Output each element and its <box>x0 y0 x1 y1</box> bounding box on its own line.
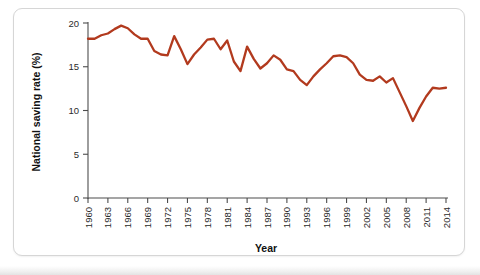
x-axis-group: 1960196319661969197219751978198119841987… <box>83 198 452 228</box>
data-line-national-saving-rate <box>88 26 446 121</box>
y-tick-label: 20 <box>68 18 79 29</box>
x-tick-label: 2011 <box>421 207 432 227</box>
page-edge-shadow <box>0 266 480 275</box>
x-tick-label: 1987 <box>262 207 273 228</box>
y-tick-group: 05101520 <box>68 18 88 204</box>
x-tick-label: 1972 <box>162 207 173 228</box>
x-tick-label: 1984 <box>242 207 253 228</box>
y-tick-label: 0 <box>74 193 79 204</box>
x-tick-label: 1975 <box>182 207 193 228</box>
series-group <box>88 26 446 121</box>
x-tick-label: 1993 <box>301 207 312 228</box>
x-tick-label: 2002 <box>361 207 372 228</box>
figure-container: 05101520 1960196319661969197219751978198… <box>0 0 480 275</box>
y-tick-label: 5 <box>74 149 79 160</box>
x-tick-label: 1963 <box>102 207 113 228</box>
x-tick-label: 1981 <box>222 207 233 228</box>
x-tick-label: 2008 <box>401 207 412 228</box>
x-tick-label: 1990 <box>281 207 292 228</box>
x-tick-label: 1978 <box>202 207 213 228</box>
x-tick-label: 1999 <box>341 207 352 228</box>
y-tick-label: 10 <box>68 105 79 116</box>
x-tick-group: 1960196319661969197219751978198119841987… <box>83 198 452 228</box>
x-tick-label: 2014 <box>441 207 452 228</box>
y-axis-group: 05101520 <box>68 18 88 204</box>
line-chart: 05101520 1960196319661969197219751978198… <box>0 0 480 275</box>
x-tick-label: 1966 <box>122 207 133 228</box>
x-tick-label: 1960 <box>83 207 94 228</box>
x-tick-label: 1969 <box>142 207 153 228</box>
y-axis-title: National saving rate (%) <box>30 52 42 171</box>
x-tick-label: 2005 <box>381 207 392 228</box>
y-tick-label: 15 <box>68 61 79 72</box>
x-tick-label: 1996 <box>321 207 332 228</box>
x-axis-title: Year <box>255 242 277 254</box>
